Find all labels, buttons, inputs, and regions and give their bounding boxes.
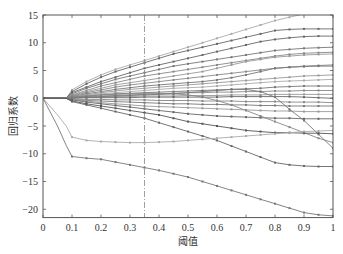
data-point-marker (318, 166, 320, 168)
data-point-marker (202, 114, 204, 116)
data-point-marker (202, 61, 204, 63)
data-point-marker (158, 106, 160, 108)
data-point-marker (216, 185, 218, 187)
data-point-marker (231, 56, 233, 58)
data-point-marker (274, 77, 276, 79)
data-point-marker (115, 71, 117, 73)
data-point-marker (260, 52, 262, 54)
data-point-marker (274, 96, 276, 98)
data-point-marker (245, 96, 247, 98)
data-point-marker (187, 131, 189, 133)
data-point-marker (216, 43, 218, 45)
data-point-marker (289, 55, 291, 57)
data-point-marker (245, 74, 247, 76)
data-point-marker (187, 84, 189, 86)
data-point-marker (245, 79, 247, 81)
data-point-marker (129, 142, 131, 144)
x-tick-label: 0.8 (269, 222, 282, 233)
data-point-marker (260, 134, 262, 136)
data-point-marker (318, 132, 320, 134)
data-point-marker (274, 56, 276, 58)
data-point-marker (274, 90, 276, 92)
data-point-marker (303, 66, 305, 68)
data-point-marker (274, 38, 276, 40)
data-point-marker (187, 82, 189, 84)
data-point-marker (260, 71, 262, 73)
data-point-marker (289, 164, 291, 166)
data-point-marker (303, 28, 305, 30)
data-point-marker (289, 66, 291, 68)
data-point-marker (260, 91, 262, 93)
data-point-marker (202, 123, 204, 125)
data-point-marker (115, 95, 117, 97)
data-point-marker (274, 104, 276, 106)
data-point-marker (158, 84, 160, 86)
data-point-marker (100, 83, 102, 85)
data-point-marker (187, 94, 189, 96)
data-point-marker (260, 58, 262, 60)
data-point-marker (71, 156, 73, 158)
data-point-marker (318, 53, 320, 55)
data-point-marker (318, 11, 320, 13)
data-point-marker (216, 51, 218, 53)
data-point-marker (318, 35, 320, 37)
data-point-marker (86, 81, 88, 83)
data-point-marker (289, 117, 291, 119)
data-point-marker (289, 80, 291, 82)
data-point-marker (245, 104, 247, 106)
y-tick-label: −15 (22, 176, 38, 187)
y-tick-label: 10 (28, 37, 38, 48)
data-point-marker (100, 85, 102, 87)
data-point-marker (115, 86, 117, 88)
data-point-marker (231, 91, 233, 93)
x-axis-label: 阈值 (178, 235, 198, 247)
data-point-marker (187, 87, 189, 89)
data-point-marker (318, 65, 320, 67)
data-point-marker (245, 109, 247, 111)
data-point-marker (245, 83, 247, 85)
data-point-marker (173, 61, 175, 63)
data-point-marker (274, 121, 276, 123)
data-point-marker (274, 133, 276, 135)
data-point-marker (202, 42, 204, 44)
data-point-marker (202, 86, 204, 88)
x-tick-label: 0.6 (211, 222, 224, 233)
data-point-marker (274, 30, 276, 32)
data-point-marker (173, 96, 175, 98)
data-point-marker (187, 77, 189, 79)
data-point-marker (129, 78, 131, 80)
data-point-marker (173, 51, 175, 53)
data-point-marker (158, 81, 160, 83)
data-point-marker (216, 137, 218, 139)
data-point-marker (216, 74, 218, 76)
data-point-marker (100, 105, 102, 107)
data-point-marker (115, 78, 117, 80)
data-point-marker (173, 85, 175, 87)
data-point-marker (318, 47, 320, 49)
data-point-marker (274, 50, 276, 52)
data-point-marker (86, 104, 88, 106)
data-point-marker (216, 99, 218, 101)
data-point-marker (158, 96, 160, 98)
data-point-marker (187, 99, 189, 101)
data-point-marker (245, 135, 247, 137)
data-point-marker (260, 156, 262, 158)
data-point-marker (129, 99, 131, 101)
data-point-marker (245, 91, 247, 93)
data-point-marker (289, 28, 291, 30)
data-point-marker (202, 91, 204, 93)
x-tick-label: 0.1 (66, 222, 79, 233)
data-point-marker (260, 24, 262, 26)
data-point-marker (115, 84, 117, 86)
data-point-marker (202, 100, 204, 102)
data-point-marker (86, 83, 88, 85)
data-point-marker (303, 79, 305, 81)
data-point-marker (289, 96, 291, 98)
data-point-marker (216, 67, 218, 69)
data-point-marker (318, 130, 320, 132)
data-point-marker (202, 138, 204, 140)
data-point-marker (318, 137, 320, 139)
data-point-marker (318, 101, 320, 103)
data-point-marker (173, 65, 175, 67)
data-point-marker (245, 129, 247, 131)
